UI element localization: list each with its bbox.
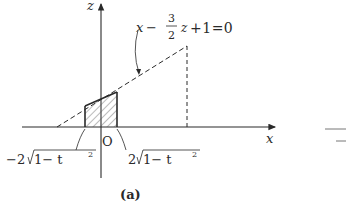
plane-line-dashed	[57, 46, 187, 127]
diagram-canvas: z x O x − 3 2 z +1=0 −2 1− t 2 2 1− t 2 …	[0, 0, 346, 218]
svg-text:−: −	[146, 20, 157, 35]
svg-text:1− t: 1− t	[143, 152, 172, 167]
z-axis-label: z	[86, 0, 94, 13]
svg-text:2: 2	[88, 150, 93, 159]
svg-text:+1=0: +1=0	[190, 20, 233, 36]
left-bound-pointer	[76, 129, 85, 150]
svg-text:3: 3	[168, 12, 175, 25]
x-axis-label: x	[266, 131, 274, 146]
right-bound-label: 2 1− t 2	[128, 150, 200, 167]
left-bound-label: −2 1− t 2	[6, 150, 96, 167]
figure-caption: (a)	[120, 187, 141, 202]
svg-text:−2: −2	[6, 152, 25, 167]
svg-text:2: 2	[128, 152, 136, 167]
svg-text:x: x	[136, 20, 144, 35]
equation-pointer	[135, 30, 139, 73]
right-bound-pointer	[117, 129, 126, 150]
origin-label: O	[102, 134, 113, 149]
svg-text:1− t: 1− t	[34, 152, 63, 167]
svg-text:z: z	[180, 21, 188, 35]
line-equation: x − 3 2 z +1=0	[136, 12, 233, 42]
svg-text:2: 2	[192, 150, 197, 159]
svg-text:2: 2	[168, 29, 175, 42]
